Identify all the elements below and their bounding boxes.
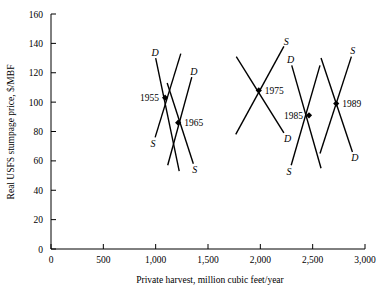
supply-label-1955: S xyxy=(150,138,155,149)
y-tick-label: 0 xyxy=(38,245,43,255)
supply-label-1965: S xyxy=(192,164,197,175)
y-tick-label: 120 xyxy=(29,68,44,78)
axis-ticks xyxy=(51,14,365,249)
stumpage-price-chart: 02040608010012014016005001,0001,5002,000… xyxy=(0,0,387,290)
y-tick-label: 140 xyxy=(29,39,44,49)
year-label-1989: 1989 xyxy=(342,99,361,109)
curve-labels: DSDSDSDSDS xyxy=(150,36,359,177)
x-tick-label: 3,000 xyxy=(354,255,376,265)
x-tick-label: 500 xyxy=(96,255,111,265)
y-tick-label: 20 xyxy=(34,215,44,225)
equilibrium-marker-1989 xyxy=(333,100,339,106)
y-tick-label: 40 xyxy=(34,186,44,196)
axis-tick-labels: 02040608010012014016005001,0001,5002,000… xyxy=(29,10,376,266)
axes xyxy=(51,14,365,249)
demand-label-1985: D xyxy=(286,54,295,65)
chart-container: 02040608010012014016005001,0001,5002,000… xyxy=(0,0,387,290)
y-tick-label: 60 xyxy=(34,156,44,166)
year-label-1985: 1985 xyxy=(284,111,303,121)
demand-label-1965: D xyxy=(189,66,198,77)
supply-label-1989: S xyxy=(350,45,355,56)
y-tick-label: 160 xyxy=(29,10,44,20)
y-tick-label: 100 xyxy=(29,98,44,108)
year-label-1965: 1965 xyxy=(184,118,203,128)
y-tick-label: 80 xyxy=(34,127,44,137)
year-label-1955: 1955 xyxy=(140,93,159,103)
demand-curve-1955 xyxy=(156,58,180,171)
demand-label-1975: D xyxy=(283,133,292,144)
x-tick-label: 2,500 xyxy=(302,255,324,265)
x-tick-label: 1,000 xyxy=(145,255,167,265)
x-tick-label: 1,500 xyxy=(197,255,219,265)
y-axis-title: Real USFS stumpage price, $/MBF xyxy=(6,65,16,200)
x-tick-label: 0 xyxy=(49,255,54,265)
x-tick-label: 2,000 xyxy=(250,255,272,265)
year-label-1975: 1975 xyxy=(265,86,284,96)
demand-label-1955: D xyxy=(150,47,159,58)
supply-label-1975: S xyxy=(284,36,289,47)
supply-demand-curves xyxy=(155,46,352,171)
x-axis-title: Private harvest, million cubic feet/year xyxy=(136,275,284,285)
demand-label-1989: D xyxy=(350,152,359,163)
supply-label-1985: S xyxy=(287,166,292,177)
